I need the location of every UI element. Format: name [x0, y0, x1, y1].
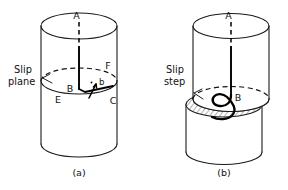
label-b-center: B — [235, 92, 242, 103]
label-a-center: B — [67, 83, 74, 94]
dislocation-diagram-canvas: A B C E F b Slip plane (a) — [0, 0, 288, 190]
label-a-top: A — [73, 10, 80, 21]
figure-root: A B C E F b Slip plane (a) — [0, 0, 288, 190]
slip-plane-label-line2-a: plane — [8, 76, 35, 87]
panel-b: A B Slip step (b) — [164, 10, 269, 178]
slip-step-label-line1-b: Slip — [166, 64, 184, 75]
label-a-right-front: C — [110, 95, 117, 106]
cylinder-a-body-fill — [41, 26, 117, 157]
label-b-top: A — [225, 10, 232, 21]
burgers-dot-a — [91, 82, 93, 84]
caption-a: (a) — [72, 167, 85, 178]
caption-b: (b) — [217, 167, 230, 178]
slip-step-label-line2-b: step — [164, 76, 185, 87]
panel-a: A B C E F b Slip plane (a) — [8, 10, 117, 178]
label-a-burgers-vector: b — [99, 77, 104, 87]
slip-plane-label-line1-a: Slip — [14, 64, 32, 75]
label-a-left-front: E — [55, 94, 61, 105]
label-a-right-back: F — [105, 60, 110, 71]
